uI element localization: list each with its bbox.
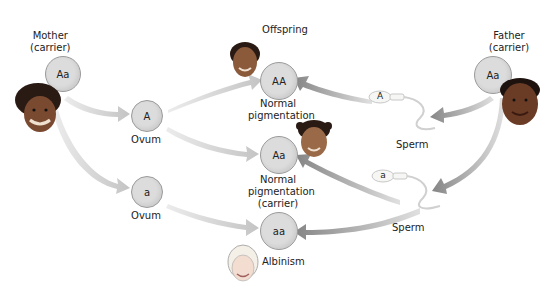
inheritance-diagram: Mother (carrier) Aa A Ovum a Ovum Offspr… — [0, 0, 554, 295]
offspring-aa-face-icon — [226, 244, 260, 286]
mother-genotype: Aa — [57, 69, 70, 80]
father-face-icon — [498, 76, 542, 128]
father-title: Father — [482, 30, 536, 42]
offspring-Aa-line1: Normal — [248, 174, 308, 186]
offspring-Aa-face-icon — [296, 118, 332, 160]
offspring-AA-circle: AA — [260, 62, 298, 100]
arrow-mother-to-ovum-A — [64, 96, 130, 122]
sperm-a-label: Sperm — [392, 222, 425, 234]
sperm-A-allele: A — [375, 90, 385, 102]
arrow-ovumA-to-Aa — [166, 127, 259, 162]
father-status: (carrier) — [482, 42, 536, 54]
arrow-ovuma-to-aa — [166, 204, 259, 236]
offspring-aa-circle: aa — [260, 212, 298, 250]
offspring-AA-face-icon — [228, 40, 262, 80]
ovum-a-allele: a — [144, 187, 150, 198]
offspring-heading: Offspring — [255, 24, 315, 36]
ovum-a-circle: a — [131, 176, 163, 208]
offspring-Aa-circle: Aa — [260, 136, 298, 174]
ovum-A-circle: A — [131, 100, 163, 132]
arrow-father-to-spermA — [430, 96, 494, 123]
offspring-aa-genotype: aa — [273, 226, 285, 237]
mother-status: (carrier) — [30, 42, 71, 54]
offspring-aa-phenotype: Albinism — [262, 256, 305, 268]
offspring-AA-genotype: AA — [272, 76, 286, 87]
mother-face-icon — [14, 80, 62, 136]
ovum-a-label: Ovum — [131, 210, 161, 222]
arrow-mother-to-ovum-a — [53, 110, 130, 194]
offspring-Aa-phenotype: Normal pigmentation (carrier) — [248, 174, 308, 210]
offspring-Aa-genotype: Aa — [273, 150, 286, 161]
offspring-Aa-line3: (carrier) — [248, 198, 308, 210]
ovum-A-label: Ovum — [131, 134, 161, 146]
father-label: Father (carrier) — [482, 30, 536, 54]
offspring-AA-line1: Normal — [248, 98, 308, 110]
mother-label: Mother (carrier) — [30, 30, 71, 54]
ovum-A-allele: A — [144, 111, 151, 122]
sperm-A-label: Sperm — [396, 139, 429, 151]
sperm-a-allele: a — [378, 169, 388, 181]
mother-title: Mother — [30, 30, 71, 42]
offspring-Aa-line2: pigmentation — [248, 186, 308, 198]
